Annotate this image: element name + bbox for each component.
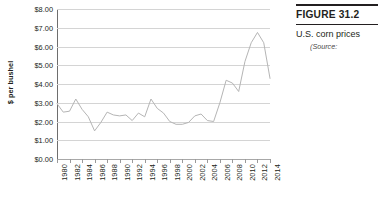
x-axis-tick-labels: 1980198219841986198819901992199419961998… bbox=[57, 164, 270, 210]
x-axis-tick-mark bbox=[220, 159, 221, 163]
x-axis-tick-label: 2000 bbox=[185, 164, 194, 181]
x-axis-tick-label: 1998 bbox=[173, 164, 182, 181]
x-axis-tick-mark bbox=[232, 159, 233, 163]
caption-top-rule bbox=[296, 4, 378, 6]
x-axis-tick-mark bbox=[70, 159, 71, 163]
figure-caption-block: FIGURE 31.2 U.S. corn prices (Source: bbox=[296, 0, 382, 212]
x-axis-tick-mark bbox=[57, 159, 58, 163]
x-axis-tick-mark bbox=[170, 159, 171, 163]
x-axis-tick-mark bbox=[270, 159, 271, 163]
y-axis-tick-label: $1.00 bbox=[35, 136, 54, 145]
x-axis-tick-mark bbox=[145, 159, 146, 163]
x-axis-tick-label: 2002 bbox=[198, 164, 207, 181]
x-axis-tick-label: 1984 bbox=[85, 164, 94, 181]
line-chart: $ per bushel $0.00$1.00$2.00$3.00$4.00$5… bbox=[0, 0, 282, 212]
x-axis-tick-mark bbox=[245, 159, 246, 163]
x-axis-tick-mark bbox=[257, 159, 258, 163]
x-axis-tick-label: 2004 bbox=[210, 164, 219, 181]
y-axis-title: $ per bushel bbox=[6, 43, 15, 123]
x-axis-tick-label: 2008 bbox=[235, 164, 244, 181]
x-axis-tick-mark bbox=[157, 159, 158, 163]
x-axis-tick-mark bbox=[195, 159, 196, 163]
plot-area: $0.00$1.00$2.00$3.00$4.00$5.00$6.00$7.00… bbox=[57, 9, 270, 159]
x-axis-tick-label: 2010 bbox=[248, 164, 257, 181]
y-axis-tick-label: $2.00 bbox=[35, 117, 54, 126]
x-axis-tick-label: 2012 bbox=[260, 164, 269, 181]
figure-source-text: (Source: bbox=[310, 42, 382, 51]
x-axis-tick-label: 1988 bbox=[110, 164, 119, 181]
caption-bottom-rule bbox=[296, 24, 378, 25]
x-axis-tick-label: 1996 bbox=[160, 164, 169, 181]
x-axis-tick-mark bbox=[207, 159, 208, 163]
x-axis-tick-label: 1992 bbox=[135, 164, 144, 181]
y-axis-tick-label: $0.00 bbox=[35, 155, 54, 164]
figure-number: FIGURE 31.2 bbox=[296, 9, 359, 20]
y-axis-tick-label: $8.00 bbox=[35, 5, 54, 14]
x-axis-tick-mark bbox=[82, 159, 83, 163]
x-axis-tick-mark bbox=[132, 159, 133, 163]
x-axis-tick-mark bbox=[95, 159, 96, 163]
x-axis-tick-label: 1980 bbox=[60, 164, 69, 181]
x-axis-tick-label: 2014 bbox=[273, 164, 282, 181]
x-axis-tick-label: 1994 bbox=[148, 164, 157, 181]
figure-caption-text: U.S. corn prices bbox=[296, 29, 382, 40]
x-axis-tick-mark bbox=[182, 159, 183, 163]
y-axis-tick-label: $4.00 bbox=[35, 80, 54, 89]
x-axis-tick-label: 1986 bbox=[98, 164, 107, 181]
series-line-corn-price bbox=[57, 32, 270, 130]
y-axis-tick-label: $6.00 bbox=[35, 42, 54, 51]
x-axis-tick-label: 1982 bbox=[73, 164, 82, 181]
x-axis-tick-label: 2006 bbox=[223, 164, 232, 181]
y-axis-tick-label: $5.00 bbox=[35, 61, 54, 70]
data-series-corn-price bbox=[57, 9, 270, 159]
x-axis-tick-label: 1990 bbox=[123, 164, 132, 181]
y-axis-tick-label: $7.00 bbox=[35, 23, 54, 32]
y-axis-tick-label: $3.00 bbox=[35, 98, 54, 107]
x-axis-tick-mark bbox=[120, 159, 121, 163]
x-axis-tick-mark bbox=[107, 159, 108, 163]
